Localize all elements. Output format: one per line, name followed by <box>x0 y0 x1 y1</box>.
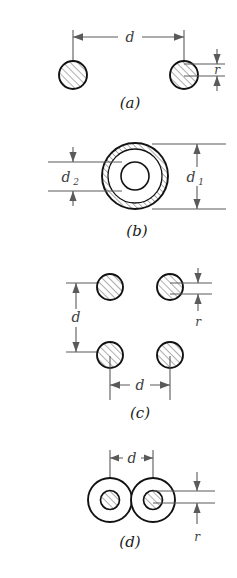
panel-c-label-d-vertical: d <box>72 309 81 325</box>
panel-b-caption: (b) <box>126 222 147 240</box>
panel-b-label-d2-subscript: 2 <box>72 177 79 187</box>
panel-d-caption: (d) <box>119 533 140 551</box>
panel-c-label-d-horizontal: d <box>136 377 145 393</box>
panel-b-label-d2: d <box>62 169 71 185</box>
figure-container: d r (a) <box>0 0 237 578</box>
figure-svg: d r (a) <box>0 0 237 578</box>
panel-b-bore-circle <box>121 162 149 190</box>
panel-d-label-d: d <box>128 450 137 466</box>
panel-b-label-d1-subscript: 1 <box>198 177 204 187</box>
panel-b-label-d1: d <box>187 169 196 185</box>
panel-a-label-d: d <box>126 29 135 45</box>
panel-a-caption: (a) <box>120 94 141 112</box>
panel-c-caption: (c) <box>130 404 150 422</box>
